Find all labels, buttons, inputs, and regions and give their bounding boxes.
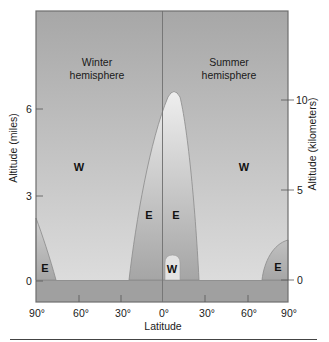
- tropical-easterlies-right-label: E: [172, 209, 179, 221]
- right-tick-5: 5: [297, 184, 303, 196]
- winter-hemisphere-label-line2: hemisphere: [70, 69, 125, 81]
- summer-westerlies-label: W: [239, 161, 250, 173]
- left-tick-3: 3: [26, 190, 32, 202]
- winter-westerlies-label: W: [74, 161, 85, 173]
- wind-diagram: Winter hemisphere Summer hemisphere W W …: [0, 0, 329, 342]
- equatorial-westerlies-label: W: [167, 263, 178, 275]
- x-tick-0: 0°: [159, 307, 169, 319]
- tropical-easterlies-left-label: E: [145, 209, 152, 221]
- x-tick-30-summer: 30°: [199, 307, 215, 319]
- winter-hemisphere-label-line1: Winter: [82, 56, 113, 68]
- x-tick-90-summer: 90°: [281, 307, 297, 319]
- x-tick-90-winter: 90°: [29, 307, 45, 319]
- summer-hemisphere-label-line2: hemisphere: [202, 69, 257, 81]
- left-axis-title: Altitude (miles): [7, 113, 19, 182]
- right-axis-title: Altitude (kilometers): [306, 98, 318, 191]
- right-tick-0: 0: [297, 274, 303, 286]
- left-tick-6: 6: [26, 103, 32, 115]
- left-tick-0: 0: [26, 275, 32, 287]
- summer-polar-easterlies-label: E: [274, 261, 281, 273]
- x-tick-60-winter: 60°: [73, 307, 89, 319]
- summer-hemisphere-label-line1: Summer: [209, 56, 249, 68]
- x-tick-30-winter: 30°: [115, 307, 131, 319]
- x-axis-title: Latitude: [144, 320, 182, 332]
- winter-polar-easterlies-label: E: [41, 262, 48, 274]
- x-tick-60-summer: 60°: [241, 307, 257, 319]
